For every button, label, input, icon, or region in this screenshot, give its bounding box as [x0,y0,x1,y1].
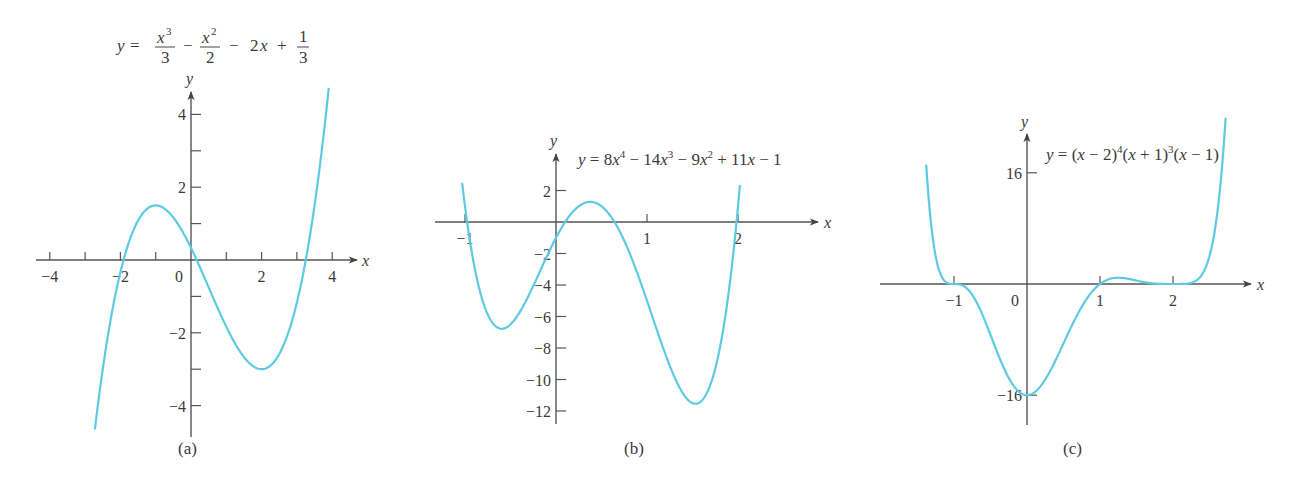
equation-a: y = x 3 3 − x 2 2 − 2 x + 1 3 [115,25,309,67]
x-tick-label: −4 [41,268,58,285]
x-tick-label: 2 [258,268,266,285]
svg-text:−: − [183,36,193,55]
axes-b: xy−1122−2−4−6−8−10−12 [435,132,831,424]
equation-b: y = 8x4 − 14x3 − 9x2 + 11x − 1 [576,148,782,169]
svg-text:2: 2 [250,36,259,55]
eq-a-lhs: y [115,36,125,55]
curve-a [95,89,329,429]
panel-c: y = (x − 2)4(x + 1)3(x − 1) xy−112016−16 [880,113,1264,425]
svg-text:3: 3 [299,48,308,67]
svg-text:3: 3 [161,48,170,67]
x-tick-label: 2 [1169,292,1177,309]
svg-text:x: x [259,36,268,55]
x-tick-label: 1 [1096,292,1104,309]
svg-text:x: x [201,28,210,47]
y-tick-label: 16 [1006,165,1022,182]
svg-text:+: + [277,36,287,55]
caption-c: (c) [1063,439,1082,458]
svg-text:2: 2 [206,48,215,67]
x-axis-label: x [823,214,831,231]
figure-canvas: y = x 3 3 − x 2 2 − 2 x + 1 3 xy−4−2240−… [0,0,1315,485]
y-axis-label: y [548,132,558,150]
caption-a: (a) [178,439,197,458]
y-tick-label: −12 [526,403,551,420]
y-axis-label: y [1019,113,1029,131]
equation-c: y = (x − 2)4(x + 1)3(x − 1) [1044,143,1219,164]
y-tick-label: 2 [543,183,551,200]
y-tick-label: −8 [534,340,551,357]
y-tick-label: −10 [526,372,551,389]
caption-b: (b) [624,439,644,458]
x-axis-label: x [1256,276,1264,293]
svg-text:x: x [156,28,165,47]
y-tick-label: −4 [169,398,186,415]
x-tick-label: −1 [945,292,962,309]
panel-b: y = 8x4 − 14x3 − 9x2 + 11x − 1 xy−1122−2… [435,132,831,424]
panel-a: y = x 3 3 − x 2 2 − 2 x + 1 3 xy−4−2240−… [36,25,369,437]
x-tick-label: 4 [328,268,336,285]
y-tick-label: −2 [169,325,186,342]
x-axis-label: x [361,252,369,269]
svg-text:1: 1 [299,27,308,46]
y-tick-label: −6 [534,309,551,326]
svg-text:=: = [130,36,140,55]
svg-text:y = (x − 2)4(x + 1)3(x − 1): y = (x − 2)4(x + 1)3(x − 1) [1044,143,1219,164]
x-tick-label: 1 [643,230,651,247]
svg-text:y = 8x4 − 14x3 − 9x2 + 11x − 1: y = 8x4 − 14x3 − 9x2 + 11x − 1 [576,148,782,169]
svg-text:2: 2 [211,25,217,37]
origin-label: 0 [1011,292,1019,309]
origin-label: 0 [175,268,183,285]
svg-text:−: − [229,36,239,55]
axes-a: xy−4−2240−4−224 [36,70,369,437]
y-axis-label: y [184,70,194,88]
y-tick-label: 4 [178,106,186,123]
y-tick-label: 2 [178,179,186,196]
svg-text:3: 3 [166,25,172,37]
curve-b [462,184,740,404]
